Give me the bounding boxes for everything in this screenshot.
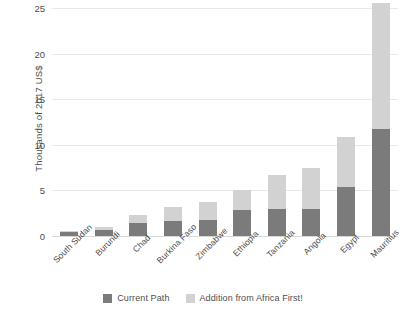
bar-stack[interactable]: [372, 3, 390, 236]
bar-segment-addition: [337, 137, 355, 187]
bar-segment-addition: [302, 168, 320, 209]
bar-segment-addition: [199, 202, 217, 219]
y-tick-label: 10: [34, 139, 45, 150]
bar-chart: Thousands of 2017 US$ 0510152025 South S…: [0, 0, 406, 315]
bars-layer: [52, 8, 398, 236]
bar-stack[interactable]: [268, 175, 286, 236]
x-axis-labels: South SudanBurundiChadBurkina FasoZimbab…: [52, 236, 398, 288]
bar-slot: [329, 8, 364, 236]
y-tick-label: 15: [34, 94, 45, 105]
x-label-slot: Angola: [294, 236, 329, 288]
y-tick-label: 25: [34, 3, 45, 14]
chart-legend: Current PathAddition from Africa First!: [0, 293, 406, 303]
bar-stack[interactable]: [302, 168, 320, 236]
x-label-slot: Egypt: [329, 236, 364, 288]
x-label-slot: Zimbabwe: [190, 236, 225, 288]
y-tick-label: 0: [40, 231, 45, 242]
legend-label: Current Path: [117, 293, 169, 303]
bar-segment-addition: [233, 190, 251, 209]
x-label-slot: Burundi: [87, 236, 122, 288]
x-label-slot: Ethiopia: [225, 236, 260, 288]
bar-stack[interactable]: [199, 202, 217, 236]
legend-label: Addition from Africa First!: [200, 293, 303, 303]
bar-slot: [294, 8, 329, 236]
x-label-slot: Tanzania: [260, 236, 295, 288]
bar-slot: [190, 8, 225, 236]
plot-area: 0510152025: [52, 8, 398, 236]
bar-slot: [156, 8, 191, 236]
legend-swatch: [103, 294, 112, 303]
bar-slot: [121, 8, 156, 236]
bar-slot: [225, 8, 260, 236]
y-tick-label: 20: [34, 48, 45, 59]
x-label-slot: Mauritius: [363, 236, 398, 288]
legend-item[interactable]: Addition from Africa First!: [186, 293, 303, 303]
x-label-slot: Burkina Faso: [156, 236, 191, 288]
bar-slot: [363, 8, 398, 236]
x-label-slot: South Sudan: [52, 236, 87, 288]
x-label-slot: Chad: [121, 236, 156, 288]
bar-segment-current-path: [337, 187, 355, 236]
x-tick-label: Chad: [131, 233, 153, 255]
bar-stack[interactable]: [164, 207, 182, 236]
bar-slot: [260, 8, 295, 236]
bar-segment-addition: [164, 207, 182, 221]
bar-segment-current-path: [372, 129, 390, 236]
y-tick-label: 5: [40, 185, 45, 196]
bar-stack[interactable]: [337, 137, 355, 236]
bar-segment-addition: [268, 175, 286, 209]
bar-slot: [87, 8, 122, 236]
legend-swatch: [186, 294, 195, 303]
bar-segment-addition: [372, 3, 390, 129]
x-tick-label: Egypt: [338, 232, 361, 255]
legend-item[interactable]: Current Path: [103, 293, 169, 303]
bar-segment-addition: [129, 215, 147, 223]
bar-slot: [52, 8, 87, 236]
bar-stack[interactable]: [233, 190, 251, 236]
